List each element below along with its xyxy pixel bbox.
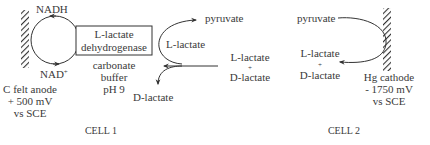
anode-label-line1: C felt anode	[3, 83, 57, 95]
electrochemical-cells-diagram: NADH NAD+ L-lactate dehydrogenase carbon…	[0, 0, 430, 145]
pyruvate-product-label: pyruvate	[205, 12, 244, 24]
nad-superscript: +	[64, 68, 68, 76]
cofactor-cycle	[31, 16, 79, 64]
substrate-label-line1: L-lactate	[230, 51, 269, 63]
enzyme-label-line2: dehydrogenase	[81, 41, 147, 53]
cathode-label-line3: vs SCE	[373, 95, 406, 107]
anode-label-line2: + 500 mV	[8, 95, 53, 107]
arrow-pyruvate-reduction-icon	[338, 18, 386, 63]
product-label-line1: L-lactate	[300, 47, 339, 59]
arrow-d-lactate-out-icon	[158, 66, 182, 84]
buffer-label-line1: carbonate	[93, 59, 136, 71]
substrate-label-line2: D-lactate	[230, 71, 270, 83]
cell-2-caption: CELL 2	[328, 125, 360, 136]
nad-text: NAD	[40, 68, 64, 80]
enzyme-label-line1: L-lactate	[94, 28, 133, 40]
product-plus: +	[318, 61, 322, 69]
cathode-label-line2: - 1750 mV	[365, 83, 413, 95]
buffer-label-line2: buffer	[101, 71, 128, 83]
cell-1: NADH NAD+ L-lactate dehydrogenase carbon…	[3, 3, 270, 136]
product-label-line2: D-lactate	[300, 69, 340, 81]
cell-1-caption: CELL 1	[85, 125, 117, 136]
anode-label-line3: vs SCE	[14, 107, 47, 119]
pyruvate-substrate-label: pyruvate	[297, 12, 336, 24]
cell-2: pyruvate L-lactate + D-lactate Hg cathod…	[297, 8, 414, 136]
l-lactate-intermediate-label: L-lactate	[166, 38, 205, 50]
cathode-label-line1: Hg cathode	[364, 71, 415, 83]
mercury-cathode	[383, 8, 391, 71]
nad-label: NAD+	[40, 68, 68, 80]
d-lactate-remaining-label: D-lactate	[133, 91, 173, 103]
buffer-label-line3: pH 9	[103, 83, 125, 95]
nadh-label: NADH	[36, 3, 68, 15]
carbon-felt-anode	[21, 10, 29, 68]
